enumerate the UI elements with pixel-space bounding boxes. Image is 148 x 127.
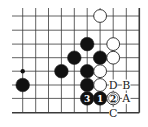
black-stone-3: 3 <box>80 92 94 106</box>
stone-disc <box>68 51 82 65</box>
stone-disc <box>16 78 30 92</box>
black-stone <box>55 64 69 78</box>
stone-disc <box>94 65 107 78</box>
black-stone <box>80 64 94 78</box>
star-points <box>21 69 25 73</box>
point-label-c: C <box>109 107 117 120</box>
black-stone-1: 1 <box>93 92 107 106</box>
black-stone <box>80 78 94 92</box>
white-stone <box>94 79 107 92</box>
move-number: 3 <box>84 94 90 104</box>
stone-disc <box>80 64 94 78</box>
point-label-text: D <box>109 79 118 92</box>
white-stone-2: 2 <box>107 92 120 105</box>
stone-disc <box>55 64 69 78</box>
stone-disc <box>80 78 94 92</box>
go-diagram: DBAC 312 <box>0 0 148 127</box>
white-stone <box>94 10 107 23</box>
star-point <box>21 69 25 73</box>
white-stone <box>107 38 120 51</box>
point-label-d: D <box>109 79 118 92</box>
black-stone <box>16 78 30 92</box>
stone-disc <box>107 38 120 51</box>
stone-disc <box>107 51 120 64</box>
black-stone <box>93 51 107 65</box>
point-label-text: C <box>109 107 117 120</box>
point-label-text: B <box>122 79 130 92</box>
point-label-text: A <box>121 92 131 105</box>
stone-disc <box>94 79 107 92</box>
move-number: 1 <box>97 94 103 104</box>
point-label-b: B <box>122 79 130 92</box>
white-stone <box>107 51 120 64</box>
point-label-a: A <box>121 92 131 105</box>
black-stone <box>68 51 82 65</box>
stone-disc <box>94 10 107 23</box>
stone-disc <box>93 51 107 65</box>
go-board-svg: DBAC 312 <box>0 0 148 127</box>
black-stone <box>80 37 94 51</box>
stone-disc <box>80 37 94 51</box>
white-stone <box>94 65 107 78</box>
move-number: 2 <box>110 94 116 104</box>
